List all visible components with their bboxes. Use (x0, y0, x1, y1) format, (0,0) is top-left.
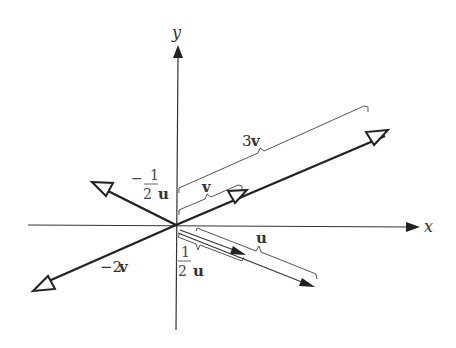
axes (28, 45, 420, 330)
label-neg-half-u-den: 2 (143, 186, 152, 202)
label-3v: 3 v (242, 132, 261, 150)
vector-neg-half-u-arrowhead-icon (92, 182, 113, 196)
y-axis-arrow-icon (173, 45, 183, 58)
y-axis (176, 55, 178, 330)
y-axis-label: y (171, 23, 182, 42)
label-neg-half-u-sign: − (131, 170, 143, 186)
label-half-u-vec: u (193, 262, 204, 280)
label-half-u-den: 2 (178, 263, 187, 279)
label-neg-half-u: − 1 2 u (131, 167, 169, 203)
vector-u-arrowhead-icon (299, 278, 315, 287)
label-v: v (201, 178, 212, 196)
label-neg-half-u-num: 1 (150, 167, 159, 183)
x-axis (28, 225, 410, 227)
vector-neg-2v-arrowhead-icon (33, 276, 55, 291)
label-3v-vec: v (250, 132, 261, 150)
label-neg-half-u-vec: u (158, 185, 169, 203)
label-half-u: 1 2 u (178, 244, 204, 280)
x-axis-label: x (424, 217, 433, 236)
label-neg-2v: −2 v (100, 258, 129, 276)
label-neg-2v-vec: v (118, 258, 129, 276)
x-axis-arrow-icon (406, 222, 420, 232)
vector-half-u-arrowhead-icon (230, 246, 246, 255)
label-half-u-num: 1 (181, 244, 190, 260)
vector-diagram: x y 3 v v −2 (0, 0, 456, 348)
label-u: u (256, 229, 267, 247)
